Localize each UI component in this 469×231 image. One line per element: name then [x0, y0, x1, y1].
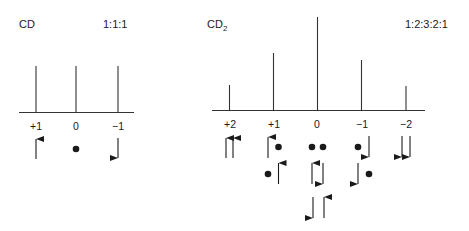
cd2-tick-minus1: −1	[356, 118, 368, 130]
cd-tick-plus1: +1	[30, 120, 42, 132]
cd2-tick-plus1: +1	[268, 118, 280, 130]
spin-zero-dot-icon	[73, 146, 80, 153]
cd2-tick-0: 0	[314, 118, 320, 130]
cd2-tick-plus2: +2	[224, 118, 236, 130]
cd-tick-0: 0	[73, 120, 79, 132]
stick-spectra	[0, 0, 469, 231]
spin-zero-dot-icon	[366, 171, 373, 178]
spin-zero-dot-icon	[265, 171, 272, 178]
spin-zero-dot-icon	[355, 144, 362, 151]
spin-zero-dot-icon	[320, 144, 327, 151]
spin-zero-dot-icon	[275, 144, 282, 151]
cd-tick-minus1: −1	[112, 120, 124, 132]
spin-zero-dot-icon	[309, 144, 316, 151]
cd2-tick-minus2: −2	[400, 118, 412, 130]
